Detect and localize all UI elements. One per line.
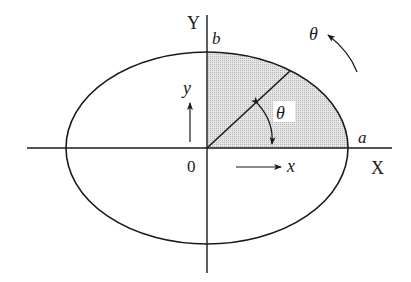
theta-inner-label: θ <box>276 103 285 123</box>
theta-outer-label: θ <box>309 24 318 44</box>
ellipse-diagram: Y b θ θ y a 0 x X <box>0 0 411 282</box>
x-axis-label: X <box>371 158 384 178</box>
semi-minor-label-b: b <box>212 29 221 48</box>
diagram-canvas: Y b θ θ y a 0 x X <box>0 0 411 282</box>
theta-rotation-arrow <box>328 35 357 72</box>
shaded-quadrant <box>207 52 348 148</box>
origin-label: 0 <box>187 157 196 176</box>
y-axis-label: Y <box>187 13 200 33</box>
y-direction-label: y <box>181 78 191 98</box>
semi-major-label-a: a <box>358 128 367 147</box>
x-direction-label: x <box>286 156 295 176</box>
